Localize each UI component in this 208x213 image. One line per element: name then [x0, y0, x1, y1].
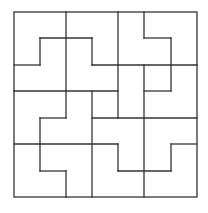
board-border [14, 12, 197, 197]
piece-boundaries [14, 12, 197, 197]
puzzle-board [0, 0, 208, 213]
